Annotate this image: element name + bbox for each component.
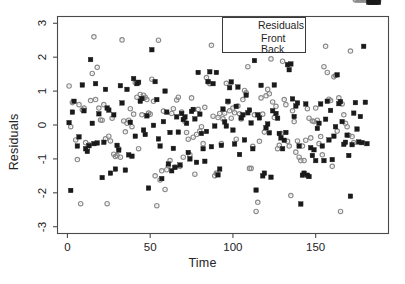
x-tick-label: 50 — [130, 241, 170, 253]
y-tick-label: -3 — [35, 217, 49, 237]
y-tick-label: -2 — [35, 183, 49, 203]
x-axis-title: Time — [188, 256, 216, 270]
y-axis-title: Residuals — [6, 0, 22, 284]
legend-title: Residuals — [225, 19, 304, 31]
legend-item-back-label: Back — [261, 43, 284, 55]
x-axis-title-wrap: Time — [0, 256, 405, 270]
legend[interactable]: Residuals Front Back — [222, 17, 306, 53]
y-tick-label: 1 — [35, 81, 49, 101]
x-tick-label: 0 — [47, 241, 87, 253]
y-tick-label: 0 — [35, 115, 49, 135]
y-tick-label: 3 — [35, 13, 49, 33]
y-tick-label: 2 — [35, 47, 49, 67]
x-tick-label: 150 — [296, 241, 336, 253]
y-tick-label: -1 — [35, 149, 49, 169]
y-axis-title-wrap: Residuals — [6, 0, 22, 284]
x-tick-label: 100 — [213, 241, 253, 253]
